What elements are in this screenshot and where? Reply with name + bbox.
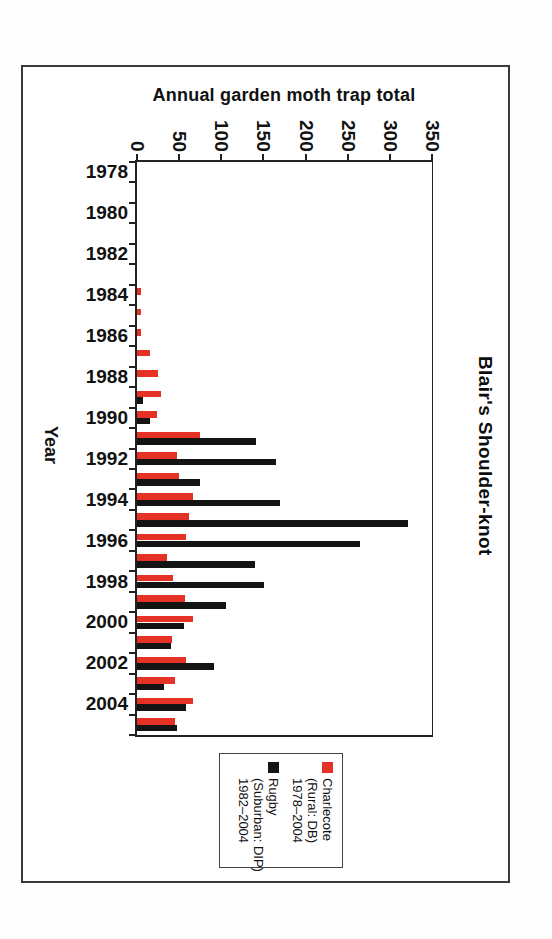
value-tick-label-text: 150 [252, 120, 274, 152]
year-tick-label: 1996 [56, 530, 128, 552]
year-tick-label: 1986 [56, 325, 128, 347]
year-tick [129, 488, 135, 490]
year-tick-label: 2002 [56, 652, 128, 674]
bar-rugby-1993 [137, 479, 200, 486]
legend-entry-line: Charlecote [320, 778, 335, 843]
year-tick-label: 1982 [56, 243, 128, 265]
year-tick [129, 284, 135, 286]
year-tick-label: 1984 [56, 284, 128, 306]
year-tick [129, 345, 135, 347]
bar-rugby-1996 [137, 541, 360, 548]
bar-rugby-2000 [137, 623, 184, 630]
year-tick [129, 734, 135, 736]
value-tick-label: 200 [295, 95, 317, 152]
year-tick [129, 550, 135, 552]
bar-charlecote-1998 [137, 575, 173, 582]
bar-rugby-1991 [137, 438, 256, 445]
year-tick [129, 304, 135, 306]
bar-charlecote-1993 [137, 473, 179, 480]
bar-charlecote-2000 [137, 616, 193, 623]
year-tick [129, 325, 135, 327]
bar-rugby-2005 [137, 725, 177, 732]
value-tick-label: 0 [126, 95, 148, 152]
value-tick-label-text: 250 [337, 120, 359, 152]
bar-rugby-2003 [137, 684, 164, 691]
legend: Charlecote(Rural: DB)1978–2004Rugby(Subu… [219, 753, 343, 868]
year-tick [129, 243, 135, 245]
legend-entry-label: Rugby(Suburban: DIP)1982–2004 [236, 778, 281, 872]
value-tick-label: 300 [379, 95, 401, 152]
value-tick-label: 150 [252, 95, 274, 152]
bar-charlecote-2002 [137, 657, 186, 664]
category-axis-title: Year [40, 426, 61, 464]
year-tick [129, 366, 135, 368]
year-tick-label: 1988 [56, 366, 128, 388]
bar-charlecote-1994 [137, 493, 193, 500]
legend-entry-line: 1978–2004 [290, 778, 305, 843]
year-tick [129, 652, 135, 654]
chart-title: Blair's Shoulder-knot [474, 356, 496, 556]
bar-charlecote-2001 [137, 636, 172, 643]
bar-charlecote-1999 [137, 595, 185, 602]
bar-charlecote-1987 [137, 350, 150, 357]
year-tick-label: 1990 [56, 407, 128, 429]
bar-charlecote-2004 [137, 698, 193, 705]
year-tick [129, 222, 135, 224]
bar-rugby-2001 [137, 643, 171, 650]
value-tick-label: 250 [337, 95, 359, 152]
plot-area [135, 160, 433, 737]
value-tick-label-text: 50 [168, 131, 190, 152]
bar-rugby-2004 [137, 704, 186, 711]
legend-entry-line: 1982–2004 [236, 778, 251, 872]
year-tick [129, 611, 135, 613]
bar-charlecote-1991 [137, 432, 200, 439]
bar-rugby-1998 [137, 582, 264, 589]
bar-rugby-1992 [137, 459, 276, 466]
legend-entry-line: (Suburban: DIP) [251, 778, 266, 872]
year-tick-label: 1978 [56, 161, 128, 183]
bar-charlecote-2005 [137, 718, 175, 725]
year-tick [129, 468, 135, 470]
value-tick-label: 350 [421, 95, 443, 152]
year-tick [129, 632, 135, 634]
legend-entry-rugby: Rugby(Suburban: DIP)1982–2004 [236, 762, 281, 867]
bar-charlecote-2003 [137, 677, 175, 684]
value-tick-label: 100 [210, 95, 232, 152]
year-tick [129, 693, 135, 695]
bar-rugby-1994 [137, 500, 280, 507]
year-tick [129, 181, 135, 183]
year-tick [129, 570, 135, 572]
legend-entry-line: Rugby [266, 778, 281, 872]
bar-rugby-1995 [137, 520, 408, 527]
value-tick-label-text: 350 [421, 120, 443, 152]
legend-entry-line: (Rural: DB) [305, 778, 320, 843]
year-tick [129, 529, 135, 531]
bar-rugby-1990 [137, 418, 150, 425]
year-tick-label: 1992 [56, 448, 128, 470]
bar-rugby-1997 [137, 561, 255, 568]
value-tick-label-text: 200 [295, 120, 317, 152]
bar-charlecote-1992 [137, 452, 177, 459]
bars-layer [137, 162, 432, 735]
year-tick [129, 202, 135, 204]
legend-inner: Charlecote(Rural: DB)1978–2004Rugby(Subu… [220, 754, 342, 867]
bar-charlecote-1984 [137, 288, 141, 295]
year-tick [129, 427, 135, 429]
value-tick-label-text: 0 [126, 141, 148, 152]
year-tick [129, 161, 135, 163]
bar-charlecote-1988 [137, 370, 158, 377]
year-tick-label: 1994 [56, 489, 128, 511]
bar-rugby-1999 [137, 602, 226, 609]
year-tick [129, 448, 135, 450]
bar-rugby-1989 [137, 397, 143, 404]
bar-charlecote-1997 [137, 554, 167, 561]
year-tick [129, 591, 135, 593]
year-tick [129, 714, 135, 716]
year-tick [129, 509, 135, 511]
year-tick [129, 386, 135, 388]
value-tick-label: 50 [168, 95, 190, 152]
year-tick-label: 2004 [56, 693, 128, 715]
value-tick-label-text: 100 [210, 120, 232, 152]
year-tick [129, 673, 135, 675]
bar-charlecote-1986 [137, 329, 141, 336]
